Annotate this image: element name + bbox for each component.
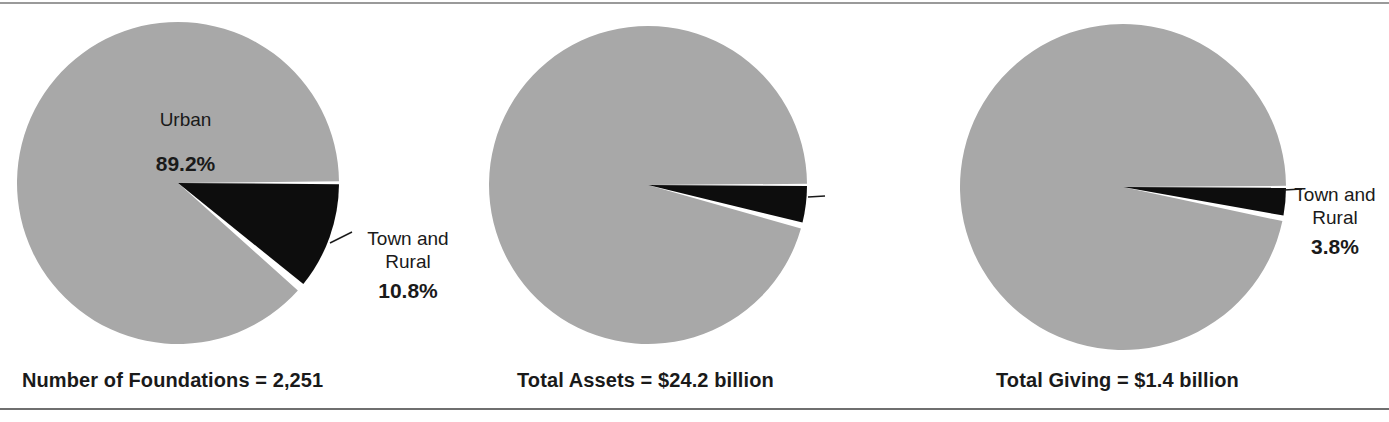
leader-line-town-and-rural <box>330 232 352 243</box>
leader-line-town-and-rural <box>1284 189 1302 190</box>
slice-label-urban-name: Urban <box>108 109 263 131</box>
pie-svg-3 <box>926 0 1389 365</box>
caption-number-of-foundations: Number of Foundations = 2,251 <box>22 369 323 392</box>
slice-urban <box>489 26 807 344</box>
caption-total-giving: Total Giving = $1.4 billion <box>996 369 1239 392</box>
pie-svg-2 <box>463 0 926 365</box>
caption-total-assets: Total Assets = $24.2 billion <box>517 369 774 392</box>
leader-line-town-and-rural <box>808 196 825 197</box>
pie-chart-2 <box>463 0 926 365</box>
bottom-divider <box>0 408 1389 410</box>
slice-label-rural-line1: Town and <box>356 228 460 251</box>
slice-label-rural-value: 10.8% <box>356 278 460 303</box>
slice-urban <box>960 24 1286 350</box>
panel-total-assets: Urban 96.2% Town and Rural 3.8% <box>463 0 926 422</box>
panel-total-giving: Urban 97.2% Town and Rural 2.8% <box>926 0 1389 422</box>
slice-label-rural-line2: Rural <box>356 251 460 274</box>
panel-number-of-foundations: Urban 89.2% Town and Rural 10.8% <box>0 0 463 422</box>
slice-label-urban-value: 89.2% <box>108 152 263 177</box>
pie-chart-3 <box>926 0 1389 365</box>
slice-label-urban: Urban 89.2% <box>108 90 263 196</box>
slice-label-town-and-rural: Town and Rural 10.8% <box>356 228 460 303</box>
pie-chart-figure: Urban 89.2% Town and Rural 10.8% Number … <box>0 0 1389 422</box>
